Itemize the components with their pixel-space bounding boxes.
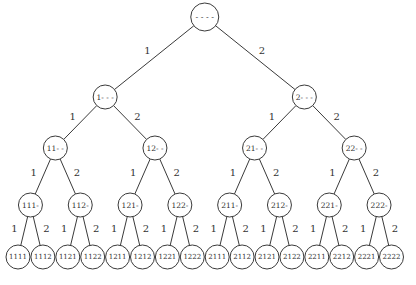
edge-label: 2 bbox=[134, 111, 140, 122]
tree-node: 222- bbox=[367, 193, 391, 217]
edge-label: 1 bbox=[310, 223, 316, 234]
tree-node: 2121 bbox=[255, 245, 279, 269]
tree-node: 1211 bbox=[106, 245, 130, 269]
tree-node: 2212 bbox=[330, 245, 354, 269]
tree-node: 1122 bbox=[81, 245, 105, 269]
tree-edge bbox=[170, 217, 177, 246]
node-label: 2- - - bbox=[296, 93, 314, 102]
tree-node: 1111 bbox=[6, 245, 30, 269]
edge-label: 2 bbox=[259, 45, 265, 56]
node-label: 121- bbox=[122, 201, 139, 210]
tree-node: 1221 bbox=[155, 245, 179, 269]
tree-edge bbox=[114, 106, 147, 140]
node-label: 22- - bbox=[346, 144, 363, 153]
tree-node: 2112 bbox=[230, 245, 254, 269]
node-label: 2122 bbox=[283, 253, 301, 261]
edge-label: 1 bbox=[230, 167, 236, 178]
tree-edge bbox=[282, 217, 289, 246]
edge-label: 2 bbox=[193, 223, 199, 234]
edge-label: 1 bbox=[61, 223, 67, 234]
tree-node: 2222 bbox=[380, 245, 404, 269]
tree-edge bbox=[135, 159, 150, 194]
tree-node: 1- - - bbox=[93, 85, 117, 109]
node-label: 12- - bbox=[146, 144, 163, 153]
node-label: 1111 bbox=[9, 253, 27, 261]
edge-label: 2 bbox=[334, 111, 340, 122]
edge-label: 2 bbox=[242, 223, 248, 234]
tree-node: 2221 bbox=[355, 245, 379, 269]
node-label: 2212 bbox=[333, 253, 351, 261]
tree-node: 211- bbox=[218, 193, 242, 217]
tree-node: 21- - bbox=[243, 136, 267, 160]
node-label: 211- bbox=[221, 201, 238, 210]
edge-label: 2 bbox=[173, 167, 179, 178]
edge-label: 2 bbox=[143, 223, 149, 234]
edge-label: 1 bbox=[161, 223, 167, 234]
edge-label: 2 bbox=[43, 223, 49, 234]
node-label: 122- bbox=[171, 201, 188, 210]
edge-label: 2 bbox=[273, 167, 279, 178]
tree-edge bbox=[382, 217, 389, 246]
tree-edge bbox=[71, 217, 78, 246]
edge-label: 1 bbox=[30, 167, 36, 178]
node-label: 111- bbox=[22, 201, 39, 210]
tree-node: 2- - - bbox=[292, 85, 316, 109]
tree-edge bbox=[83, 217, 90, 246]
tree-node: 12- - bbox=[143, 136, 167, 160]
tree-edge bbox=[369, 217, 376, 246]
node-label: 2211 bbox=[308, 253, 326, 261]
node-label: 1122 bbox=[84, 253, 102, 261]
edge-label: 2 bbox=[292, 223, 298, 234]
tree-edge bbox=[133, 217, 140, 246]
edge-label: 1 bbox=[260, 223, 266, 234]
node-label: 112- bbox=[72, 201, 89, 210]
edge-label: 1 bbox=[360, 223, 366, 234]
tree-node: 121- bbox=[118, 193, 142, 217]
node-label: 212- bbox=[271, 201, 288, 210]
node-label: 11- - bbox=[47, 144, 64, 153]
tree-edge bbox=[120, 217, 127, 246]
node-label: 2111 bbox=[208, 253, 226, 261]
tree-edge bbox=[332, 217, 339, 246]
edge-label: 1 bbox=[329, 167, 335, 178]
node-label: 2221 bbox=[358, 253, 376, 261]
tree-edge bbox=[216, 26, 295, 90]
edge-label: 2 bbox=[93, 223, 99, 234]
tree-node: 1212 bbox=[131, 245, 155, 269]
tree-diagram: 121212121212121212121212121212 - - - -1-… bbox=[0, 0, 416, 285]
tree-edge bbox=[313, 106, 346, 140]
node-label: 2121 bbox=[258, 253, 276, 261]
node-label: 1- - - bbox=[97, 93, 115, 102]
tree-edge bbox=[33, 217, 40, 246]
node-label: 1112 bbox=[34, 253, 52, 261]
edge-label: 2 bbox=[342, 223, 348, 234]
edge-label: 1 bbox=[144, 45, 150, 56]
tree-node: - - - - bbox=[191, 3, 219, 31]
node-label: 1211 bbox=[109, 253, 127, 261]
tree-edge bbox=[35, 159, 50, 194]
node-label: 1212 bbox=[134, 253, 152, 261]
tree-node: 1121 bbox=[56, 245, 80, 269]
tree-edge bbox=[320, 217, 327, 246]
tree-edge bbox=[220, 217, 227, 246]
tree-edge bbox=[21, 217, 28, 246]
tree-node: 212- bbox=[267, 193, 291, 217]
tree-node: 11- - bbox=[43, 136, 67, 160]
tree-node: 1222 bbox=[180, 245, 204, 269]
edge-label: 2 bbox=[74, 167, 80, 178]
tree-node: 112- bbox=[68, 193, 92, 217]
node-label: - - - - bbox=[196, 13, 215, 22]
edge-label: 2 bbox=[373, 167, 379, 178]
tree-node: 22- - bbox=[342, 136, 366, 160]
tree-node: 111- bbox=[18, 193, 42, 217]
tree-node: 2111 bbox=[205, 245, 229, 269]
tree-node: 221- bbox=[317, 193, 341, 217]
node-label: 21- - bbox=[246, 144, 263, 153]
edge-label: 1 bbox=[11, 223, 17, 234]
node-label: 2222 bbox=[383, 253, 401, 261]
edge-label: 1 bbox=[269, 111, 275, 122]
tree-node: 122- bbox=[168, 193, 192, 217]
node-label: 222- bbox=[371, 201, 388, 210]
edge-label: 2 bbox=[392, 223, 398, 234]
tree-edge bbox=[270, 217, 277, 246]
